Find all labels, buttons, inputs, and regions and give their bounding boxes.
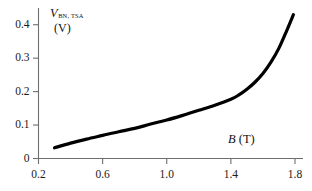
plot-canvas — [0, 0, 312, 191]
y-axis-symbol: V — [50, 6, 58, 20]
data-series-curve — [55, 15, 294, 148]
x-tick-label: 0.6 — [83, 169, 123, 181]
y-axis-unit: (V) — [54, 22, 71, 34]
y-tick-label: 0.1 — [15, 119, 29, 131]
y-tick-label: 0 — [24, 153, 30, 165]
axis-lines — [33, 8, 303, 159]
x-tick-marks — [39, 159, 295, 165]
chart-figure: 00.10.20.30.4 0.20.61.01.41.8 VBN, TSA (… — [0, 0, 312, 191]
x-axis-unit: (T) — [239, 132, 255, 146]
x-tick-label: 1.8 — [275, 169, 312, 181]
y-tick-marks — [33, 25, 39, 159]
y-axis-subscript: BN, TSA — [58, 12, 83, 19]
y-axis-title: VBN, TSA — [50, 7, 84, 20]
y-tick-label: 0.3 — [15, 52, 29, 64]
x-tick-label: 1.0 — [147, 169, 187, 181]
x-axis-title: B (T) — [228, 133, 255, 146]
x-tick-label: 1.4 — [211, 169, 251, 181]
x-axis-symbol: B — [228, 132, 236, 146]
x-tick-label: 0.2 — [19, 169, 59, 181]
y-tick-label: 0.4 — [15, 19, 29, 31]
y-tick-label: 0.2 — [15, 86, 29, 98]
